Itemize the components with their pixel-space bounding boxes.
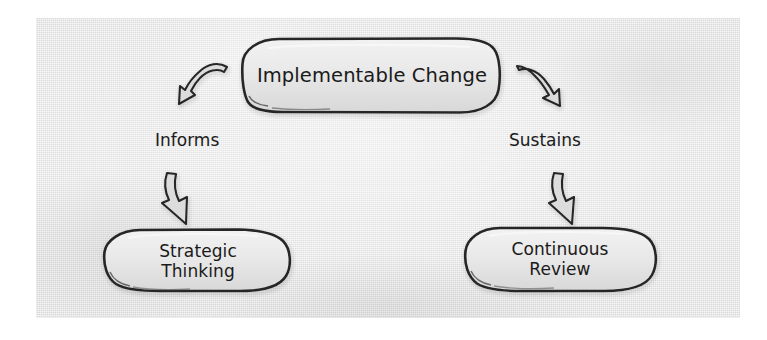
node-label-continuous-review-line2: Review [511, 259, 608, 279]
node-label-strategic-thinking-line2: Thinking [159, 261, 237, 281]
edge-label-informs: Informs [155, 130, 219, 150]
diagram-canvas: Implementable Change Strategic Thinking … [0, 0, 767, 340]
edge-label-sustains: Sustains [509, 130, 581, 150]
node-label-continuous-review-line1: Continuous [511, 239, 608, 259]
node-label-continuous-review: Continuous Review [470, 229, 650, 289]
node-label-implementable-change: Implementable Change [248, 40, 496, 110]
node-label-strategic-thinking-line1: Strategic [159, 241, 237, 261]
node-label-strategic-thinking: Strategic Thinking [110, 231, 286, 291]
